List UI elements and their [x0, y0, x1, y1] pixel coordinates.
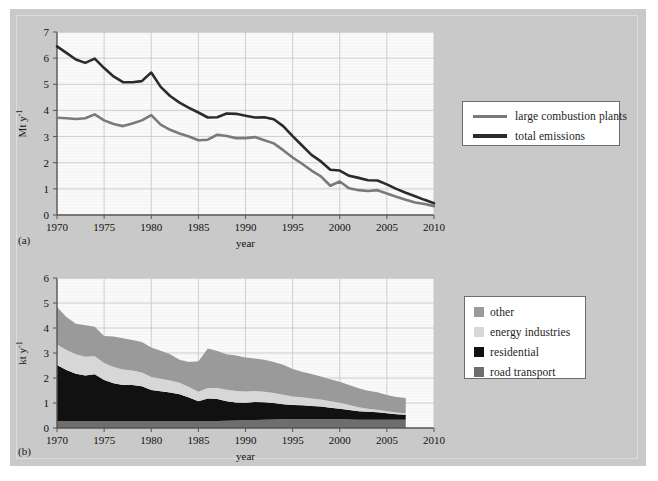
- y-axis-title: Mt y-1: [15, 110, 28, 138]
- panel-a-legend: large combustion plants total emissions: [462, 101, 620, 146]
- legend-label: road transport: [490, 366, 556, 378]
- y-tick-label: 5: [44, 297, 50, 309]
- legend-item[interactable]: other: [474, 302, 585, 322]
- x-tick-label: 1990: [235, 434, 258, 446]
- y-tick-label: 7: [44, 26, 50, 38]
- y-tick-label: 0: [44, 209, 50, 221]
- legend-label: energy industries: [490, 326, 570, 338]
- x-tick-label: 1980: [140, 221, 163, 233]
- legend-item[interactable]: total emissions: [473, 126, 619, 146]
- x-tick-label: 1975: [93, 434, 116, 446]
- panel-b: 0123456197019751980198519901995200020052…: [0, 250, 658, 481]
- x-tick-label: 1970: [46, 434, 69, 446]
- x-tick-label: 1980: [140, 434, 163, 446]
- legend-line-icon: [473, 115, 507, 118]
- panel-b-label: (b): [18, 445, 31, 457]
- x-tick-label: 1970: [46, 221, 69, 233]
- legend-label: large combustion plants: [515, 110, 627, 122]
- legend-swatch-icon: [474, 307, 484, 317]
- legend-item[interactable]: road transport: [474, 362, 585, 382]
- y-tick-label: 5: [44, 78, 50, 90]
- y-tick-label: 4: [44, 322, 50, 334]
- svg-text:Mt y-1: Mt y-1: [15, 110, 28, 138]
- legend-swatch-icon: [474, 347, 484, 357]
- y-tick-label: 1: [44, 183, 50, 195]
- panel-a: 0123456719701975198019851990199520002005…: [0, 0, 658, 250]
- figure-container: 0123456719701975198019851990199520002005…: [0, 0, 658, 481]
- legend-line-icon: [473, 134, 507, 138]
- x-tick-label: 2000: [329, 434, 352, 446]
- x-tick-label: 2005: [376, 434, 399, 446]
- x-tick-label: 1985: [187, 221, 210, 233]
- legend-item[interactable]: residential: [474, 342, 585, 362]
- y-tick-label: 6: [44, 272, 50, 284]
- x-axis-title: year: [236, 450, 255, 462]
- panel-b-legend: other energy industries residential road…: [464, 296, 586, 379]
- legend-swatch-icon: [474, 327, 484, 337]
- x-tick-label: 2010: [423, 221, 446, 233]
- legend-label: residential: [490, 346, 539, 358]
- y-tick-label: 3: [44, 347, 50, 359]
- x-tick-label: 1995: [282, 434, 305, 446]
- legend-label: total emissions: [515, 130, 585, 142]
- legend-label: other: [490, 306, 514, 318]
- svg-text:kt y-1: kt y-1: [15, 341, 28, 364]
- legend-item[interactable]: large combustion plants: [473, 106, 619, 126]
- legend-item[interactable]: energy industries: [474, 322, 585, 342]
- x-tick-label: 2000: [329, 221, 352, 233]
- x-tick-label: 1985: [187, 434, 210, 446]
- x-tick-label: 1995: [282, 221, 305, 233]
- y-tick-label: 2: [44, 157, 50, 169]
- y-axis-title: kt y-1: [15, 341, 28, 364]
- y-tick-label: 1: [44, 397, 50, 409]
- y-tick-label: 3: [44, 131, 50, 143]
- y-tick-label: 2: [44, 372, 50, 384]
- legend-swatch-icon: [474, 367, 484, 377]
- x-tick-label: 2010: [423, 434, 446, 446]
- x-tick-label: 1990: [235, 221, 258, 233]
- panel-a-label: (a): [18, 234, 30, 246]
- y-tick-label: 4: [44, 104, 50, 116]
- y-tick-label: 0: [44, 422, 50, 434]
- y-tick-label: 6: [44, 52, 50, 64]
- x-tick-label: 2005: [376, 221, 399, 233]
- x-tick-label: 1975: [93, 221, 116, 233]
- x-axis-title: year: [236, 237, 255, 249]
